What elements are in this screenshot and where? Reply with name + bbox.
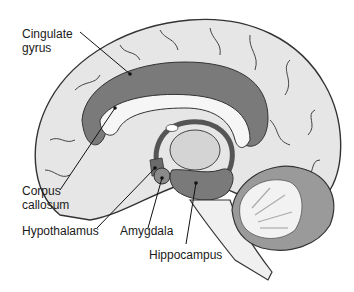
label-corpus-callosum-line2: callosum [22,198,69,212]
label-corpus-callosum-line1: Corpus [22,184,61,198]
label-cingulate-gyrus-line1: Cingulate [22,27,73,41]
amygdala-region [154,168,170,184]
hippocampus-region [170,169,233,200]
label-amygdala: Amygdala [120,224,173,238]
thalamus [170,130,220,170]
label-cingulate-gyrus-line2: gyrus [22,41,51,55]
label-hippocampus: Hippocampus [149,248,222,262]
label-hypothalamus: Hypothalamus [22,224,99,238]
